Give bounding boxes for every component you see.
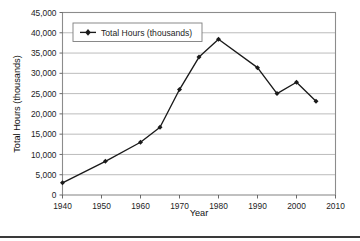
- chart-figure: 05,00010,00015,00020,00025,00030,00035,0…: [0, 0, 360, 241]
- x-tick-label: 2010: [326, 201, 345, 211]
- x-tick-label: 1990: [248, 201, 267, 211]
- y-tick-label: 0: [52, 190, 57, 200]
- y-tick-label: 10,000: [31, 150, 57, 160]
- x-tick-label: 1940: [53, 201, 72, 211]
- y-tick-label: 45,000: [31, 8, 57, 18]
- y-tick-label: 30,000: [31, 68, 57, 78]
- x-tick-label: 1950: [92, 201, 111, 211]
- x-tick-label: 1980: [209, 201, 228, 211]
- line-chart: 05,00010,00015,00020,00025,00030,00035,0…: [0, 0, 360, 241]
- y-tick-label: 40,000: [31, 28, 57, 38]
- y-tick-label: 25,000: [31, 89, 57, 99]
- legend-label-total-hours: Total Hours (thousands): [101, 28, 192, 38]
- y-tick-label: 15,000: [31, 129, 57, 139]
- x-tick-label: 2000: [287, 201, 306, 211]
- y-tick-label: 35,000: [31, 48, 57, 58]
- x-tick-label: 1970: [170, 201, 189, 211]
- y-axis-title: Total Hours (thousands): [12, 55, 22, 153]
- x-tick-label: 1960: [131, 201, 150, 211]
- y-tick-label: 5,000: [36, 170, 57, 180]
- x-axis-title: Year: [190, 208, 209, 218]
- footer-rule: [0, 236, 360, 238]
- legend: Total Hours (thousands): [73, 23, 202, 42]
- y-tick-label: 20,000: [31, 109, 57, 119]
